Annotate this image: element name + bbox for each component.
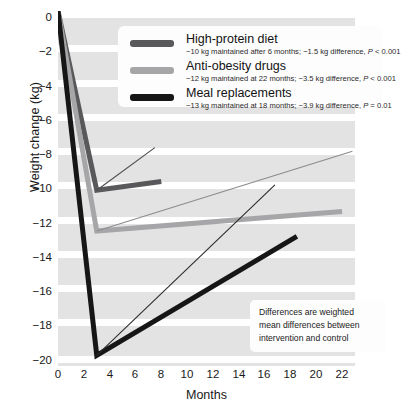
legend-swatch-high-protein-diet [130, 40, 174, 47]
x-tick-8: 8 [149, 368, 173, 380]
legend-detail-pre-1: −12 kg maintained at 22 months; −3.5 kg … [186, 74, 363, 83]
x-tick-14: 14 [227, 368, 251, 380]
annotation-line-3: intervention and control [259, 333, 348, 343]
legend-swatch-meal-replacements [130, 94, 174, 101]
x-tick-2: 2 [72, 368, 96, 380]
y-tick-m2: −2 [26, 46, 52, 58]
x-tick-4: 4 [98, 368, 122, 380]
legend: High-protein diet −10 kg maintained afte… [118, 26, 382, 107]
x-tick-18: 18 [278, 368, 302, 380]
x-tick-0: 0 [46, 368, 70, 380]
annotation-box: Differences are weighted mean difference… [250, 300, 386, 352]
x-tick-6: 6 [123, 368, 147, 380]
x-axis-title: Months [58, 388, 355, 402]
legend-label-high-protein-diet: High-protein diet [186, 32, 278, 46]
legend-detail-high-protein-diet: −10 kg maintained after 6 months; −1.5 k… [186, 47, 401, 56]
legend-detail-post-2: = 0.01 [368, 101, 391, 110]
y-axis-ticks: 0 −2 −4 −6 −8 −10 −12 −14 −16 −18 −20 [22, 0, 52, 412]
y-tick-m6: −6 [26, 115, 52, 127]
y-tick-m20: −20 [26, 355, 52, 367]
series-control-meal-replacements [97, 185, 275, 355]
x-tick-10: 10 [175, 368, 199, 380]
x-tick-20: 20 [304, 368, 328, 380]
y-tick-m14: −14 [26, 252, 52, 264]
x-tick-22: 22 [330, 368, 354, 380]
y-tick-m16: −16 [26, 286, 52, 298]
y-tick-m18: −18 [26, 320, 52, 332]
y-tick-m12: −12 [26, 218, 52, 230]
legend-swatch-anti-obesity-drugs [130, 67, 174, 74]
legend-detail-post-1: < 0.001 [368, 74, 396, 83]
legend-label-meal-replacements: Meal replacements [186, 86, 292, 100]
annotation-line-1: Differences are weighted [259, 307, 354, 317]
y-tick-0: 0 [26, 12, 52, 24]
y-tick-m4: −4 [26, 81, 52, 93]
legend-detail-anti-obesity-drugs: −12 kg maintained at 22 months; −3.5 kg … [186, 74, 396, 83]
y-tick-m10: −10 [26, 183, 52, 195]
annotation-line-2: mean differences between [259, 320, 360, 330]
x-tick-12: 12 [201, 368, 225, 380]
legend-label-anti-obesity-drugs: Anti-obesity drugs [186, 59, 286, 73]
legend-detail-pre-0: −10 kg maintained after 6 months; −1.5 k… [186, 47, 368, 56]
y-tick-m8: −8 [26, 149, 52, 161]
legend-detail-pre-2: −13 kg maintained at 18 months; −3.9 kg … [186, 101, 363, 110]
legend-detail-post-0: < 0.001 [373, 47, 401, 56]
figure-root: Weight change (kg) 0 −2 −4 −6 −8 −10 −12… [0, 0, 401, 412]
legend-detail-meal-replacements: −13 kg maintained at 18 months; −3.9 kg … [186, 101, 392, 110]
x-tick-16: 16 [252, 368, 276, 380]
